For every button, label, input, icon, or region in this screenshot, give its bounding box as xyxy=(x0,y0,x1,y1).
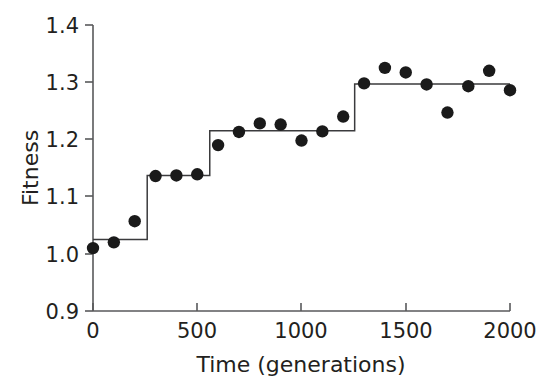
x-tick-label-1500: 1500 xyxy=(379,319,432,343)
y-axis-title: Fitness xyxy=(18,130,43,206)
data-point xyxy=(170,169,182,181)
fitness-step-chart: 1.4 1.3 1.2 1.1 1.0 0.9 0 500 1000 1500 … xyxy=(0,0,556,387)
y-tick-label-0.9: 0.9 xyxy=(46,300,79,324)
data-point xyxy=(129,215,141,227)
y-tick-label-1.4: 1.4 xyxy=(46,14,79,38)
figure-container: 1.4 1.3 1.2 1.1 1.0 0.9 0 500 1000 1500 … xyxy=(0,0,556,387)
data-point xyxy=(108,236,120,248)
data-point xyxy=(316,125,328,137)
data-point xyxy=(254,117,266,129)
data-point xyxy=(462,80,474,92)
x-tick-label-0: 0 xyxy=(86,319,99,343)
data-point xyxy=(212,139,224,151)
x-axis-ticks xyxy=(93,303,510,311)
x-axis-title: Time (generations) xyxy=(195,352,405,377)
data-point xyxy=(337,110,349,122)
data-point xyxy=(191,168,203,180)
x-axis-tick-labels: 0 500 1000 1500 2000 xyxy=(86,319,536,343)
data-point xyxy=(358,77,370,89)
data-point xyxy=(420,78,432,90)
data-point xyxy=(87,242,99,254)
data-point xyxy=(295,134,307,146)
data-point xyxy=(441,106,453,118)
data-point xyxy=(149,170,161,182)
data-point xyxy=(504,84,516,96)
data-point xyxy=(400,66,412,78)
y-tick-label-1.0: 1.0 xyxy=(46,243,79,267)
y-tick-label-1.2: 1.2 xyxy=(46,128,79,152)
x-tick-label-2000: 2000 xyxy=(483,319,536,343)
x-tick-label-500: 500 xyxy=(177,319,217,343)
y-tick-label-1.3: 1.3 xyxy=(46,71,79,95)
data-point xyxy=(483,65,495,77)
y-axis-tick-labels: 1.4 1.3 1.2 1.1 1.0 0.9 xyxy=(46,14,79,324)
data-point xyxy=(233,126,245,138)
y-tick-label-1.1: 1.1 xyxy=(46,185,79,209)
x-tick-label-1000: 1000 xyxy=(274,319,327,343)
y-axis-ticks xyxy=(85,25,93,311)
data-point xyxy=(274,118,286,130)
data-point-group xyxy=(87,62,516,255)
data-point xyxy=(379,62,391,74)
